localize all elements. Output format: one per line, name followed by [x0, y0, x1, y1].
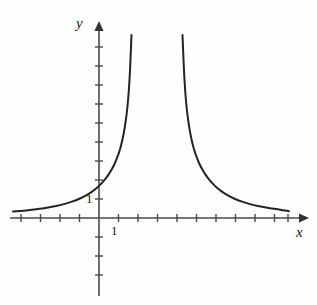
x-axis-arrowhead	[299, 213, 309, 222]
y-axis	[94, 21, 103, 296]
x-axis-tick-label-1: 1	[111, 224, 118, 237]
curve-left-branch	[13, 35, 132, 212]
x-axis	[10, 213, 309, 222]
curve-right-branch	[183, 35, 290, 211]
y-axis-arrowhead	[94, 21, 103, 31]
y-axis-label: y	[76, 16, 83, 31]
plot-canvas	[0, 0, 317, 305]
graph-figure: y x 1 1	[0, 0, 317, 305]
y-axis-tick-label-1: 1	[86, 192, 93, 205]
x-axis-label: x	[296, 225, 303, 240]
